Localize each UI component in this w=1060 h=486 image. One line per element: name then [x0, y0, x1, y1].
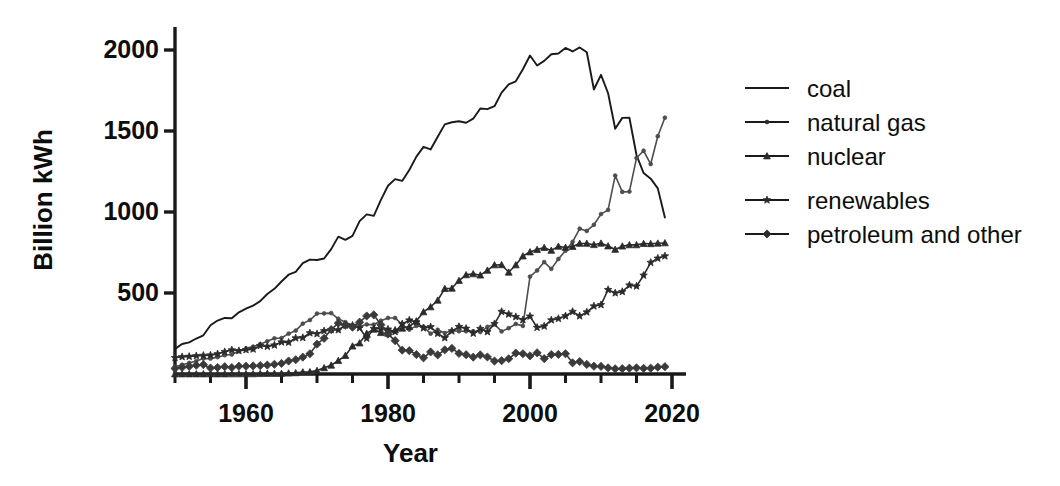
series-marker — [535, 269, 539, 273]
legend-label: renewables — [807, 187, 930, 214]
series-marker — [500, 329, 504, 333]
y-axis-tick-label: 1500 — [103, 116, 159, 144]
series-marker — [294, 329, 298, 333]
series-marker — [606, 208, 610, 212]
series-marker — [613, 174, 617, 178]
legend-label: petroleum and other — [807, 221, 1022, 248]
series-marker — [429, 332, 433, 336]
series-marker — [635, 156, 639, 160]
series-marker — [578, 227, 582, 231]
series-marker — [365, 323, 369, 327]
series-marker — [329, 311, 333, 315]
legend-label: coal — [807, 75, 851, 102]
legend-label: natural gas — [807, 109, 926, 136]
legend-swatch-marker — [765, 120, 769, 124]
series-marker — [521, 324, 525, 328]
series-marker — [507, 326, 511, 330]
series-marker — [620, 190, 624, 194]
x-axis-tick-label: 1960 — [218, 399, 274, 427]
series-marker — [528, 275, 532, 279]
legend-label: nuclear — [807, 143, 886, 170]
series-marker — [656, 134, 660, 138]
series-marker — [287, 332, 291, 336]
series-marker — [514, 322, 518, 326]
y-axis-tick-label: 2000 — [103, 35, 159, 63]
series-marker — [322, 312, 326, 316]
series-marker — [642, 149, 646, 153]
series-marker — [542, 260, 546, 264]
series-marker — [315, 312, 319, 316]
series-marker — [599, 212, 603, 216]
x-axis-title: Year — [383, 438, 438, 468]
series-marker — [585, 229, 589, 233]
series-marker — [592, 223, 596, 227]
series-marker — [273, 336, 277, 340]
series-marker — [457, 329, 461, 333]
chart-root: 5001000150020001960198020002020YearBilli… — [0, 0, 1060, 486]
x-axis-tick-label: 2000 — [502, 399, 558, 427]
series-marker — [301, 322, 305, 326]
y-axis-title: Billion kWh — [28, 129, 58, 271]
series-marker — [308, 318, 312, 322]
line-chart-figure: 5001000150020001960198020002020YearBilli… — [0, 0, 1060, 486]
x-axis-tick-label: 2020 — [644, 399, 700, 427]
series-marker — [663, 116, 667, 120]
series-marker — [557, 257, 561, 261]
series-marker — [649, 162, 653, 166]
x-axis-tick-label: 1980 — [360, 399, 416, 427]
series-marker — [230, 353, 234, 357]
series-marker — [628, 190, 632, 194]
series-marker — [549, 267, 553, 271]
series-marker — [386, 316, 390, 320]
series-marker — [393, 316, 397, 320]
y-axis-tick-label: 500 — [117, 278, 159, 306]
y-axis-tick-label: 1000 — [103, 197, 159, 225]
